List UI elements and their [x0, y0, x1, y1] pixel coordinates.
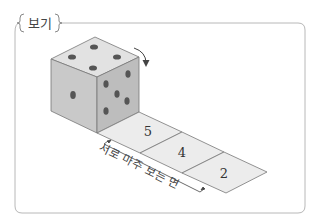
strip-cell-3-label: 2 — [220, 166, 228, 181]
box-label: 보기 — [17, 14, 62, 32]
box-label-text: 보기 — [28, 16, 52, 31]
box-frame — [15, 23, 305, 213]
dice-diagram: 보기 5 4 — [0, 0, 312, 217]
strip-cell-1-label: 5 — [144, 124, 152, 139]
net-strip: 5 4 2 서로 마주 보는 면 — [97, 112, 267, 193]
strip-cell-2-label: 4 — [178, 145, 186, 160]
left-face-pip — [70, 91, 76, 99]
